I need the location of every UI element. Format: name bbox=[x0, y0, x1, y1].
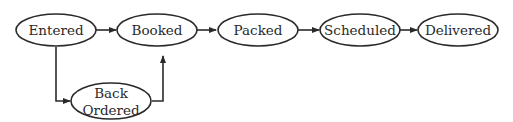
node-back-ordered: Back Ordered bbox=[71, 83, 151, 119]
node-packed: Packed bbox=[218, 14, 298, 46]
node-booked: Booked bbox=[117, 14, 197, 46]
node-scheduled-label: Scheduled bbox=[324, 22, 396, 38]
node-entered-label: Entered bbox=[28, 22, 83, 38]
node-delivered-label: Delivered bbox=[425, 22, 492, 38]
order-status-flow-diagram: Entered Booked Packed Scheduled Delivere… bbox=[0, 0, 513, 122]
node-back-ordered-label-line2: Ordered bbox=[82, 102, 140, 118]
edge-back-ordered-to-booked bbox=[152, 56, 163, 101]
node-entered: Entered bbox=[16, 14, 96, 46]
edge-entered-to-back-ordered bbox=[56, 47, 70, 101]
node-scheduled: Scheduled bbox=[320, 14, 400, 46]
node-booked-label: Booked bbox=[132, 22, 183, 38]
node-delivered: Delivered bbox=[418, 14, 498, 46]
node-back-ordered-label-line1: Back bbox=[94, 85, 129, 101]
node-packed-label: Packed bbox=[234, 22, 283, 38]
